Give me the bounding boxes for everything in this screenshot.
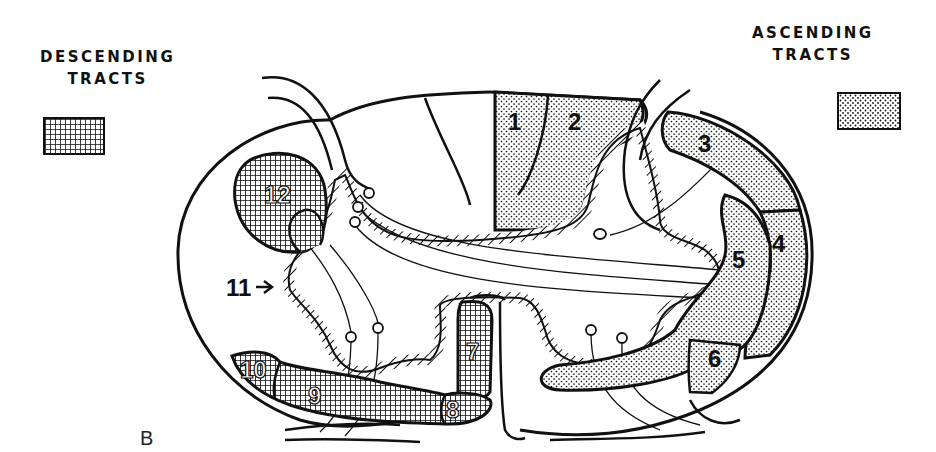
spinal-cord-cross-section-diagram: 1 2 3 4 5 6 7 8 9 10 11 12 [0, 0, 936, 452]
tract-label-12: 12 [264, 181, 291, 208]
tract-label-10: 10 [240, 356, 267, 383]
tract-label-8: 8 [446, 396, 459, 423]
tract-label-9: 9 [308, 382, 321, 409]
tract-label-2: 2 [568, 108, 581, 135]
tract-11-arrow-icon [256, 281, 272, 293]
tract-label-7: 7 [466, 338, 479, 365]
tract-label-4: 4 [772, 230, 786, 257]
tract-label-11: 11 [226, 274, 251, 301]
figure-panel-label: B [140, 427, 153, 450]
tract-label-5: 5 [732, 246, 745, 273]
tract-label-6: 6 [708, 345, 721, 372]
tract-label-1: 1 [508, 108, 521, 135]
tract-label-3: 3 [698, 130, 711, 157]
